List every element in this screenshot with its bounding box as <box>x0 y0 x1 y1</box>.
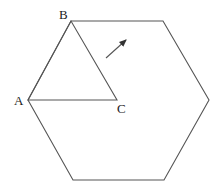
label-a: A <box>14 93 24 108</box>
geometry-figure: A B C <box>0 0 220 194</box>
diagram-canvas: A B C <box>0 0 220 194</box>
triangle-abc <box>28 21 117 100</box>
direction-arrow-icon <box>106 40 126 58</box>
label-c: C <box>117 101 126 116</box>
label-b: B <box>59 7 68 22</box>
